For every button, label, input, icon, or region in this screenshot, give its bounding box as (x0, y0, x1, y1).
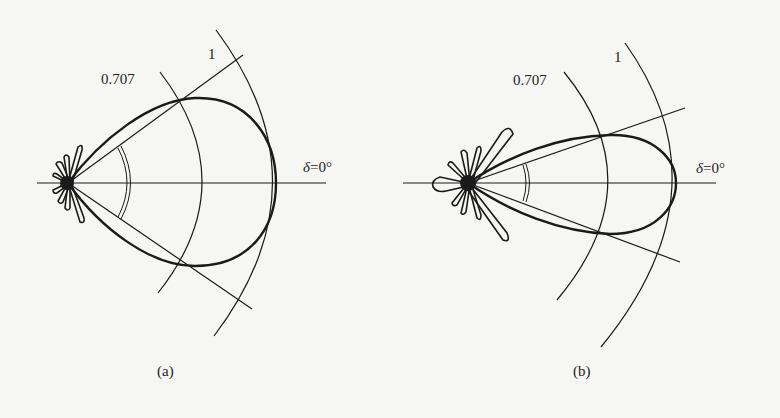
delta-symbol-b: δ (696, 160, 703, 176)
beam-edge-upper-a (68, 55, 243, 183)
polar-patterns-svg (0, 0, 780, 418)
origin-blob-b (460, 175, 476, 191)
label-unit-a: 1 (208, 47, 216, 62)
origin-blob-a (60, 176, 74, 190)
label-unit-b: 1 (614, 50, 622, 65)
main-lobe-a (68, 98, 276, 266)
arc-unit-b (601, 43, 672, 347)
caption-a: (a) (157, 364, 174, 379)
main-lobe-b (468, 135, 676, 234)
pattern-b (403, 43, 716, 347)
pattern-a (37, 30, 326, 336)
axis-value-a: =0° (310, 159, 332, 175)
label-half-power-b: 0.707 (513, 73, 547, 88)
axis-value-b: =0° (703, 160, 725, 176)
arc-half-power-b (557, 72, 608, 300)
radiation-pattern-figure: 0.707 1 δ=0° (a) 0.707 1 δ=0° (b) (0, 0, 780, 418)
caption-b: (b) (573, 364, 591, 379)
label-half-power-a: 0.707 (101, 72, 135, 87)
delta-symbol-a: δ (303, 159, 310, 175)
label-axis-a: δ=0° (303, 160, 332, 175)
label-axis-b: δ=0° (696, 161, 725, 176)
